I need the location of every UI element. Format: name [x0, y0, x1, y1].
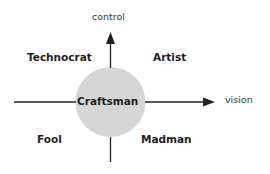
arrow-up-icon — [106, 32, 115, 44]
quadrant-bottom-right: Madman — [141, 133, 192, 145]
quadrant-bottom-left: Fool — [37, 133, 62, 145]
arrow-right-icon — [203, 98, 215, 107]
quadrant-top-left: Technocrat — [27, 51, 92, 63]
quadrant-diagram — [0, 0, 270, 174]
quadrant-top-right: Artist — [153, 51, 186, 63]
center-label: Craftsman — [77, 95, 138, 107]
vertical-axis-label: control — [92, 11, 125, 22]
horizontal-axis-label: vision — [225, 94, 253, 105]
